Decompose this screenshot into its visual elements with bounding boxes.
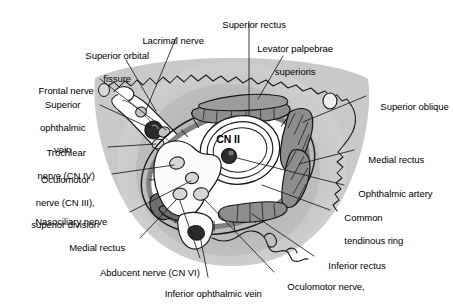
label-line: Superior orbital (85, 50, 149, 61)
label-oculomotor-nerve-inferior-division: Oculomotor nerve, inferior division (277, 270, 397, 305)
label-levator-palpebrae-superioris: Levator palpebrae superioris (225, 32, 355, 88)
anatomy-figure: CN II Superior rectus Lacrimal nerve Lev… (0, 0, 453, 305)
label-line: Levator palpebrae (257, 43, 333, 54)
optic-nerve-inline-label: CN II (206, 134, 250, 145)
label-superior-oblique: Superior oblique (370, 90, 453, 124)
label-line: Ophthalmic artery (358, 188, 432, 199)
label-medial-rectus-right: Medial rectus (358, 143, 452, 177)
label-line: Oculomotor nerve, (287, 281, 364, 292)
label-line: Superior (45, 99, 81, 110)
label-line: Common (344, 212, 382, 223)
label-line: Nasociliary nerve (35, 216, 107, 227)
label-line: Oculomotor (41, 174, 90, 185)
label-line: Superior oblique (380, 101, 448, 112)
label-line: Superior rectus (222, 19, 286, 30)
label-inferior-ophthalmic-vein: Inferior ophthalmic vein (133, 277, 283, 305)
label-line: tendinous ring (344, 235, 403, 246)
label-line: Inferior ophthalmic vein (165, 288, 262, 299)
ophthalmic-artery-vessel (222, 149, 237, 164)
label-line: Medial rectus (368, 154, 424, 165)
label-line: Trochlear (46, 147, 85, 158)
label-line: ophthalmic (40, 122, 85, 133)
label-line: superioris (275, 66, 316, 77)
label-line: Medial rectus (69, 242, 125, 253)
right-rim-foramen (323, 93, 337, 109)
